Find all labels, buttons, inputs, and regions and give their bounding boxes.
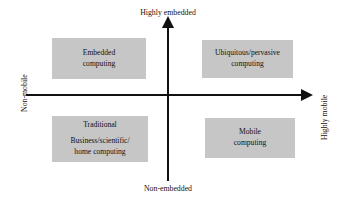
arrow-up-icon [162, 16, 174, 28]
quadrant-label-line: computing [83, 59, 115, 70]
quadrant-mobile-computing: Mobile computing [205, 118, 295, 158]
quadrant-label-line: Business/scientific/ [70, 136, 129, 147]
quadrant-label-line: Traditional [83, 120, 116, 131]
axis-label-highly-embedded: Highly embedded [112, 8, 224, 17]
axis-label-non-embedded: Non-embedded [112, 184, 224, 193]
vertical-axis-line [167, 24, 169, 181]
axis-label-highly-mobile: Highly mobile [320, 95, 329, 140]
axis-label-non-mobile: Non-mobile [20, 74, 29, 112]
quadrant-label-line: home computing [74, 147, 125, 158]
quadrant-diagram: Highly embedded Non-embedded Non-mobile … [0, 0, 337, 204]
quadrant-label-line: Embedded [83, 48, 115, 59]
quadrant-label-line: computing [231, 59, 263, 70]
quadrant-traditional-computing: Traditional Business/scientific/ home co… [52, 116, 148, 162]
quadrant-label-line: Mobile [239, 127, 261, 138]
quadrant-embedded-computing: Embedded computing [52, 38, 146, 79]
quadrant-label-line: Ubiquitous/pervasive [215, 48, 280, 59]
quadrant-label-line: computing [234, 138, 266, 149]
horizontal-axis-line [26, 94, 303, 96]
arrow-right-icon [301, 89, 313, 101]
quadrant-ubiquitous-pervasive-computing: Ubiquitous/pervasive computing [202, 40, 293, 78]
